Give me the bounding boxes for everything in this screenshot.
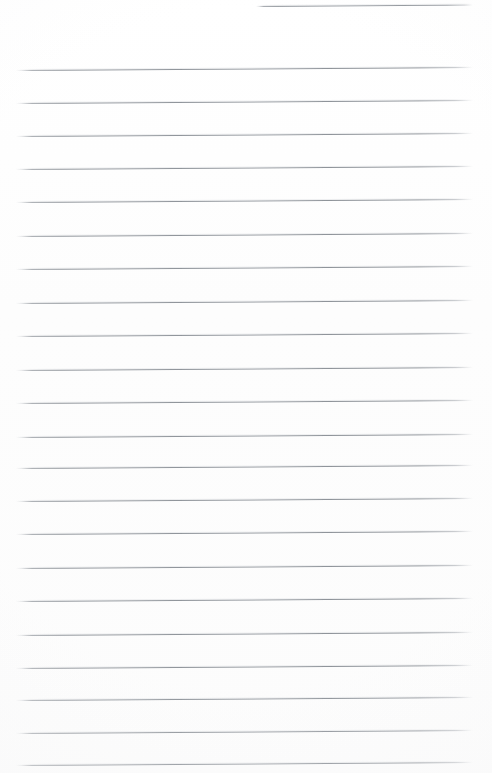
- rule-line: [16, 166, 473, 170]
- rule-line: [16, 697, 473, 701]
- rule-line: [16, 465, 473, 469]
- rule-line: [16, 333, 473, 337]
- rule-line: [16, 665, 473, 669]
- rule-line: [16, 565, 473, 569]
- rule-line: [16, 632, 473, 636]
- rule-line: [16, 498, 473, 502]
- rule-line: [16, 266, 473, 270]
- paper-surface: [0, 0, 492, 773]
- rule-line: [16, 67, 473, 71]
- rule-line: [16, 233, 473, 237]
- rule-line-partial: [256, 5, 473, 7]
- rule-line: [16, 730, 473, 734]
- rule-line: [16, 300, 473, 304]
- rule-line: [16, 100, 473, 104]
- rule-line: [16, 133, 473, 137]
- rule-line: [16, 762, 473, 766]
- paper-vignette: [0, 0, 492, 773]
- rule-line: [16, 367, 473, 371]
- rule-line: [16, 434, 473, 438]
- rule-line: [16, 531, 473, 535]
- rule-line: [16, 598, 473, 602]
- rule-line: [16, 199, 473, 203]
- rule-line: [16, 400, 473, 404]
- scanned-page: [0, 0, 492, 773]
